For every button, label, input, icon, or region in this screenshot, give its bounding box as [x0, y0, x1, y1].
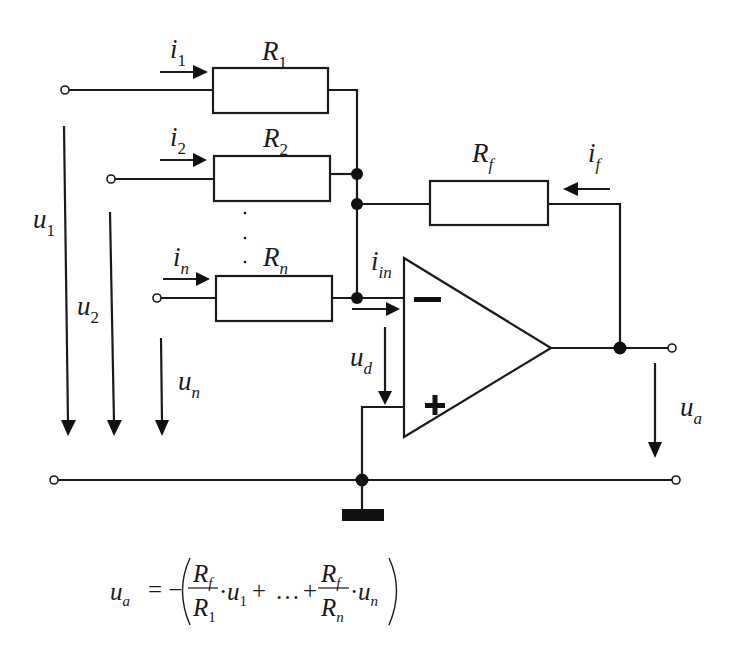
- resistor-r2: [214, 156, 330, 201]
- wire-r1-to-bus: [328, 90, 357, 174]
- arrow-down-icon: [61, 420, 76, 436]
- resistor-rn: [216, 276, 332, 321]
- arrow-down-icon: [155, 420, 169, 436]
- opamp: [404, 258, 670, 437]
- voltage-arrow-un-shaft: [161, 338, 162, 422]
- formula-lhs: ua: [110, 578, 130, 609]
- wire-rf-to-output: [548, 204, 620, 348]
- terminal-input-2: [107, 175, 115, 183]
- label-r1: R1: [261, 36, 287, 72]
- label-ua: ua: [680, 392, 702, 428]
- formula-term1-var: u1: [227, 578, 247, 609]
- formula-plus-2: +: [303, 577, 317, 604]
- resistor-r1: [213, 68, 328, 113]
- label-i2: i2: [170, 122, 186, 158]
- formula-termn-num: Rf: [320, 560, 342, 591]
- arrow-right-icon: [193, 153, 207, 167]
- terminal-ground-left: [50, 476, 58, 484]
- voltage-arrow-u1-shaft: [64, 126, 68, 422]
- formula-termn-den: Rn: [320, 594, 344, 625]
- label-if: if: [588, 138, 603, 174]
- ellipsis-dots: [244, 212, 247, 264]
- ground-symbol-icon: [342, 509, 384, 521]
- arrow-right-icon: [196, 272, 210, 286]
- branch-r1: i1 R1: [61, 34, 357, 174]
- arrow-down-icon: [107, 420, 122, 436]
- formula: ua = − Rf R1 · u1 + … + Rf Rn · un: [110, 558, 397, 625]
- formula-ellipsis: …: [275, 577, 300, 604]
- plus-sign-icon: [433, 395, 438, 415]
- terminal-ground-right: [672, 476, 680, 484]
- label-iin: iin: [371, 246, 392, 282]
- branch-r2: i2 R2: [107, 122, 357, 201]
- junction-r2: [351, 168, 363, 180]
- label-ud: ud: [350, 342, 373, 378]
- voltage-arrows: u1 u2 un: [33, 126, 200, 436]
- formula-plus-1: +: [252, 577, 266, 604]
- arrow-down-icon: [648, 442, 662, 458]
- arrow-right-icon: [193, 65, 208, 79]
- label-rn: Rn: [262, 242, 288, 278]
- formula-term1-num: Rf: [192, 560, 214, 591]
- formula-equals: = −: [148, 576, 182, 603]
- junction-output: [614, 342, 627, 355]
- arrow-down-icon: [378, 391, 392, 405]
- circuit-diagram: i1 R1 i2 R2 in Rn Rf: [0, 0, 737, 659]
- formula-termn-var: un: [358, 578, 378, 609]
- label-r2: R2: [262, 123, 288, 159]
- opamp-triangle: [404, 258, 551, 437]
- voltage-arrow-u2-shaft: [110, 212, 114, 422]
- junction-minus: [351, 292, 363, 304]
- terminal-input-n: [153, 294, 161, 302]
- label-u2: u2: [77, 291, 99, 327]
- label-un: un: [178, 366, 200, 402]
- formula-right-paren: [389, 558, 397, 625]
- arrow-right-icon: [386, 302, 400, 316]
- terminal-input-1: [61, 86, 69, 94]
- wire-plus-to-ground: [362, 407, 404, 480]
- minus-sign-icon: [414, 297, 441, 302]
- label-in: in: [173, 242, 189, 278]
- terminal-output: [668, 344, 676, 352]
- arrow-left-icon: [563, 182, 578, 196]
- label-rf: Rf: [471, 138, 496, 174]
- formula-left-paren: [183, 558, 191, 625]
- formula-term1-den: R1: [192, 594, 216, 625]
- resistor-rf: [430, 181, 548, 225]
- label-u1: u1: [33, 204, 55, 240]
- label-i1: i1: [170, 34, 186, 70]
